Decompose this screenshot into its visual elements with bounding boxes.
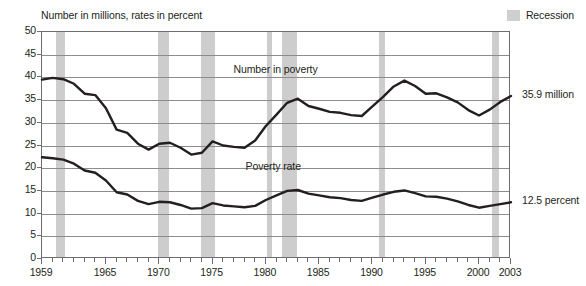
chart-legend: Recession: [507, 9, 574, 21]
x-axis-major-tick: [425, 258, 426, 264]
x-axis-minor-tick: [148, 258, 149, 262]
y-axis-tick: [37, 76, 41, 77]
x-axis-minor-tick: [286, 258, 287, 262]
poverty-chart-figure: Number in millions, rates in percent Rec…: [0, 0, 586, 286]
x-axis-minor-tick: [222, 258, 223, 262]
y-axis-tick: [37, 54, 41, 55]
x-axis-major-tick: [478, 258, 479, 264]
x-axis-tick-label: 1975: [200, 266, 223, 278]
x-axis-tick-label: 2000: [467, 266, 490, 278]
x-axis-minor-tick: [137, 258, 138, 262]
x-axis-minor-tick: [467, 258, 468, 262]
recession-legend-label: Recession: [526, 9, 574, 21]
y-axis-tick-label: 0: [10, 251, 36, 263]
x-axis-major-tick: [105, 258, 106, 264]
x-axis-minor-tick: [244, 258, 245, 262]
x-axis-minor-tick: [180, 258, 181, 262]
y-axis-tick-label: 25: [10, 138, 36, 150]
x-axis-major-tick: [212, 258, 213, 264]
x-axis-minor-tick: [403, 258, 404, 262]
x-axis-minor-tick: [489, 258, 490, 262]
y-axis-tick: [37, 122, 41, 123]
y-axis-tick-label: 40: [10, 69, 36, 81]
x-axis-minor-tick: [94, 258, 95, 262]
chart-axis-title: Number in millions, rates in percent: [41, 9, 202, 21]
x-axis-minor-tick: [382, 258, 383, 262]
series-label-number-in-poverty: Number in poverty: [234, 63, 318, 75]
y-axis-tick: [37, 31, 41, 32]
x-axis-minor-tick: [329, 258, 330, 262]
x-axis-tick-label: 1980: [254, 266, 277, 278]
end-value-poverty-rate: 12.5 percent: [522, 194, 579, 206]
x-axis-tick-label: 1965: [94, 266, 117, 278]
x-axis-major-tick: [318, 258, 319, 264]
series-line: [42, 78, 511, 155]
x-axis-tick-label: 1985: [307, 266, 330, 278]
x-axis-tick-label: 2003: [499, 266, 522, 278]
y-axis-tick: [37, 235, 41, 236]
end-value-number-in-poverty: 35.9 million: [522, 88, 574, 100]
x-axis-minor-tick: [73, 258, 74, 262]
x-axis-tick-label: 1995: [413, 266, 436, 278]
x-axis-minor-tick: [393, 258, 394, 262]
y-axis-tick-label: 15: [10, 183, 36, 195]
x-axis-minor-tick: [499, 258, 500, 262]
x-axis-tick-label: 1959: [30, 266, 53, 278]
x-axis-minor-tick: [190, 258, 191, 262]
x-axis-minor-tick: [62, 258, 63, 262]
y-axis-tick: [37, 99, 41, 100]
y-axis-tick-label: 30: [10, 115, 36, 127]
y-axis-tick-label: 10: [10, 206, 36, 218]
y-axis-tick-label: 5: [10, 228, 36, 240]
y-axis-tick: [37, 145, 41, 146]
x-axis-tick-label: 1970: [147, 266, 170, 278]
y-axis-tick-label: 45: [10, 47, 36, 59]
y-axis-tick-label: 20: [10, 160, 36, 172]
x-axis-minor-tick: [52, 258, 53, 262]
x-axis-minor-tick: [457, 258, 458, 262]
x-axis-minor-tick: [435, 258, 436, 262]
x-axis-minor-tick: [169, 258, 170, 262]
x-axis-minor-tick: [307, 258, 308, 262]
y-axis-tick: [37, 190, 41, 191]
y-axis-tick: [37, 213, 41, 214]
x-axis-minor-tick: [414, 258, 415, 262]
x-axis-minor-tick: [126, 258, 127, 262]
x-axis-tick-label: 1990: [360, 266, 383, 278]
x-axis-minor-tick: [116, 258, 117, 262]
x-axis-minor-tick: [233, 258, 234, 262]
y-axis-tick-label: 35: [10, 92, 36, 104]
x-axis-minor-tick: [446, 258, 447, 262]
x-axis-minor-tick: [254, 258, 255, 262]
x-axis-minor-tick: [361, 258, 362, 262]
x-axis-minor-tick: [201, 258, 202, 262]
x-axis-minor-tick: [339, 258, 340, 262]
series-label-poverty-rate: Poverty rate: [246, 160, 301, 172]
x-axis-minor-tick: [84, 258, 85, 262]
y-axis-tick: [37, 167, 41, 168]
x-axis-minor-tick: [297, 258, 298, 262]
x-axis-major-tick: [510, 258, 511, 264]
x-axis-major-tick: [371, 258, 372, 264]
x-axis-major-tick: [265, 258, 266, 264]
x-axis-minor-tick: [350, 258, 351, 262]
x-axis-major-tick: [41, 258, 42, 264]
x-axis-minor-tick: [276, 258, 277, 262]
y-axis-tick-label: 50: [10, 24, 36, 36]
x-axis-major-tick: [158, 258, 159, 264]
recession-legend-swatch: [507, 10, 520, 21]
